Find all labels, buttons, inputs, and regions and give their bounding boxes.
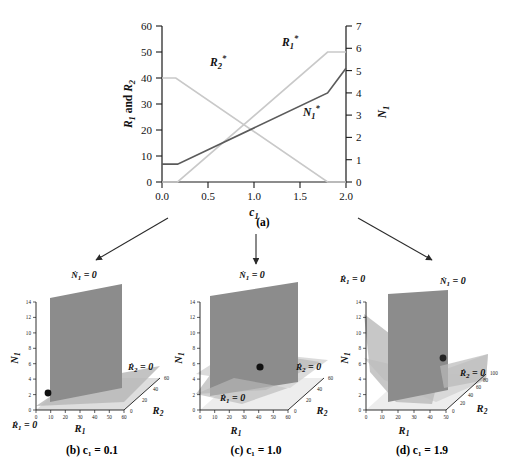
x-axis-ticks: 0 10 20 30 40 50	[365, 410, 449, 420]
svg-text:20: 20	[306, 397, 312, 403]
svg-text:20: 20	[395, 414, 401, 420]
svg-text:6: 6	[192, 361, 195, 367]
svg-text:40: 40	[427, 414, 433, 420]
right-tick-label: 5	[356, 65, 362, 77]
panel-c-3d-plot: 0 2 4 6 8 10 12 14 N1 0 10 20 30 40 50 6…	[170, 262, 342, 457]
svg-text:20: 20	[227, 414, 233, 420]
svg-text:0: 0	[28, 407, 31, 413]
svg-text:60: 60	[285, 414, 291, 420]
x-axis-ticks: 0 10 20 30 40 50 60	[35, 410, 127, 420]
svg-text:8: 8	[192, 345, 195, 351]
svg-text:10: 10	[26, 330, 32, 336]
nullcline-label-N1: Ṅ1 = 0	[70, 269, 97, 282]
svg-text:60: 60	[328, 375, 334, 381]
svg-text:2: 2	[28, 392, 31, 398]
svg-text:4: 4	[192, 376, 195, 382]
svg-text:30: 30	[411, 414, 417, 420]
svg-text:40: 40	[468, 392, 474, 398]
x-tick-label: 1.5	[293, 190, 307, 202]
svg-text:50: 50	[107, 414, 113, 420]
svg-text:6: 6	[28, 361, 31, 367]
left-tick-label: 0	[147, 176, 153, 188]
svg-text:8: 8	[28, 345, 31, 351]
svg-text:20: 20	[460, 400, 466, 406]
svg-text:50: 50	[443, 414, 449, 420]
svg-text:0: 0	[452, 408, 455, 414]
panel-c-svg: 0 2 4 6 8 10 12 14 N1 0 10 20 30 40 50 6…	[170, 262, 342, 442]
left-tick-label: 50	[141, 46, 153, 58]
series-line-R2star	[162, 78, 346, 182]
panel-d-svg: 0 2 4 6 8 10 12 14 N1 0 10 20 30 40 50	[336, 262, 508, 442]
x-tick-label: 1.0	[247, 190, 261, 202]
equilibrium-point	[440, 355, 447, 362]
panel-a-svg: 0 10 20 30 40 50 60 0 1 2	[118, 4, 408, 219]
svg-text:10: 10	[190, 330, 196, 336]
svg-text:12: 12	[190, 314, 196, 320]
right-tick-label: 6	[356, 42, 362, 54]
svg-text:0: 0	[192, 407, 195, 413]
panel-c-caption: (c) c₁ = 1.0	[170, 444, 342, 456]
svg-text:40: 40	[92, 414, 98, 420]
svg-text:0: 0	[358, 407, 361, 413]
svg-text:60: 60	[476, 384, 482, 390]
svg-text:20: 20	[63, 414, 69, 420]
svg-text:40: 40	[153, 386, 159, 392]
left-tick-label: 40	[141, 72, 153, 84]
svg-text:40: 40	[317, 386, 323, 392]
x-axis-label: R1	[74, 423, 86, 436]
svg-text:14: 14	[190, 299, 196, 305]
x-tick-label: 0.0	[155, 190, 169, 202]
svg-text:0: 0	[199, 414, 202, 420]
series-label-R2star: R2*	[209, 53, 227, 71]
panel-b-caption: (b) c₁ = 0.1	[6, 444, 178, 456]
z-axis-ticks: 0 2 4 6 8 10 12 14	[190, 299, 200, 413]
left-axis-ticks: 0 10 20 30 40 50 60	[141, 20, 162, 188]
svg-text:14: 14	[26, 299, 32, 305]
panel-b-3d-plot: 0 2 4 6 8 10 12 14 N1 0 10 20 30 40 50	[6, 262, 178, 457]
svg-text:0: 0	[365, 414, 368, 420]
series-label-N1star: N1*	[302, 103, 321, 121]
right-tick-label: 0	[356, 176, 362, 188]
y-axis-title-right: N1	[376, 106, 391, 120]
nullcline-label-N1: Ṅ1 = 0	[238, 269, 265, 282]
nullcline-surface-N1	[388, 290, 448, 402]
left-tick-label: 10	[141, 150, 153, 162]
equilibrium-point	[45, 390, 52, 397]
right-tick-label: 7	[356, 20, 362, 32]
svg-text:4: 4	[28, 376, 31, 382]
y-axis-title-left: R1 and R2	[122, 79, 137, 129]
svg-text:2: 2	[192, 392, 195, 398]
left-tick-label: 30	[141, 98, 153, 110]
y-axis-label: R2	[476, 403, 488, 416]
svg-text:8: 8	[358, 345, 361, 351]
svg-text:0: 0	[130, 408, 133, 414]
arrow-to-panel-d	[358, 218, 432, 260]
svg-text:12: 12	[356, 314, 362, 320]
x-tick-label: 2.0	[339, 190, 353, 202]
series-line-R1star	[162, 52, 346, 182]
panel-b-svg: 0 2 4 6 8 10 12 14 N1 0 10 20 30 40 50	[6, 262, 178, 442]
x-axis-ticks: 0.0 0.5 1.0 1.5 2.0	[155, 182, 353, 202]
right-tick-label: 2	[356, 131, 362, 143]
z-axis-label: N1	[339, 352, 352, 364]
svg-text:10: 10	[356, 330, 362, 336]
left-tick-label: 60	[141, 20, 153, 32]
right-tick-label: 3	[356, 109, 362, 121]
svg-text:2: 2	[358, 392, 361, 398]
nullcline-surface-N1	[210, 282, 298, 396]
panel-d-3d-plot: 0 2 4 6 8 10 12 14 N1 0 10 20 30 40 50	[336, 262, 508, 457]
nullcline-surface-N1	[50, 284, 122, 402]
svg-text:50: 50	[271, 414, 277, 420]
svg-text:10: 10	[48, 414, 54, 420]
z-axis-ticks: 0 2 4 6 8 10 12 14	[26, 299, 36, 413]
right-axis-ticks: 0 1 2 3 4 5 6 7	[346, 20, 362, 188]
svg-text:40: 40	[256, 414, 262, 420]
z-axis-label: N1	[173, 352, 186, 364]
svg-text:12: 12	[26, 314, 32, 320]
panel-d-caption: (d) c₁ = 1.9	[336, 444, 508, 456]
svg-text:14: 14	[356, 299, 362, 305]
x-axis-ticks: 0 10 20 30 40 50 60	[199, 410, 291, 420]
left-tick-label: 20	[141, 124, 153, 136]
svg-text:10: 10	[212, 414, 218, 420]
nullcline-label-R1: Ṙ1 = 0	[11, 419, 37, 432]
